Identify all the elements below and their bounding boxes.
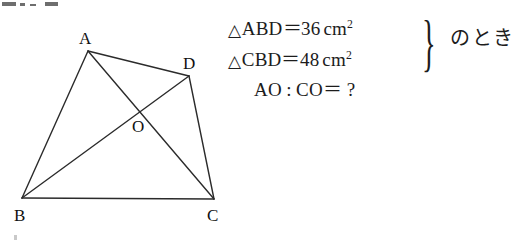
area-value-abd: 36 (301, 18, 320, 39)
vertex-label-d: D (183, 55, 195, 72)
condition-label: のとき (450, 28, 515, 48)
unit-abd: cm2 (323, 18, 353, 39)
vertex-label-b: B (14, 207, 25, 224)
side-ab (22, 51, 88, 198)
unit-exponent: 2 (347, 18, 353, 31)
diagonal-bd (22, 76, 189, 198)
triangle-abd-name: ABD (242, 18, 283, 39)
unit-text: cm (322, 49, 346, 70)
question-line: AO:CO＝ ? (254, 80, 356, 99)
vertex-label-c: C (207, 207, 218, 224)
triangle-cbd-name: CBD (242, 49, 282, 70)
vertex-label-a: A (79, 30, 91, 47)
right-brace-icon: } (422, 12, 436, 75)
given-equations: △ABD＝36cm2 △CBD＝48cm2 } (228, 14, 353, 76)
side-dc (189, 76, 214, 199)
equals-sign: ＝ (281, 49, 300, 70)
unit-cbd: cm2 (322, 49, 352, 70)
geometry-figure: ADCBO (0, 0, 250, 246)
grouping-brace: } (422, 12, 444, 76)
side-ad (88, 51, 189, 76)
unit-text: cm (323, 18, 347, 39)
diagonal-ac (88, 51, 214, 199)
ratio-left-term: AO (254, 79, 282, 100)
vertex-label-o: O (132, 118, 144, 135)
area-value-cbd: 48 (300, 49, 319, 70)
answer-placeholder: ? (347, 79, 356, 100)
ratio-right-term: CO (296, 79, 323, 100)
equals-sign: ＝ (323, 79, 342, 100)
equation-row-abd: △ABD＝36cm2 (228, 14, 353, 45)
triangle-icon: △ (228, 21, 241, 40)
problem-statement: △ABD＝36cm2 △CBD＝48cm2 } のとき AO:CO＝ ? (228, 14, 500, 134)
triangle-icon: △ (228, 52, 241, 71)
equation-row-cbd: △CBD＝48cm2 (228, 45, 353, 76)
equals-sign: ＝ (283, 18, 302, 39)
ratio-colon: : (286, 79, 292, 100)
unit-exponent: 2 (346, 49, 352, 62)
side-bc (22, 198, 214, 199)
